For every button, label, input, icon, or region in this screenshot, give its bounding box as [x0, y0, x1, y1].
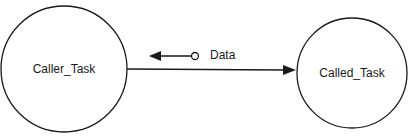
call-connector: [127, 69, 284, 70]
call-arrowhead-icon: [283, 65, 296, 75]
diagram-canvas: Caller_Task Called_Task Data: [0, 0, 418, 138]
caller-task-label: Caller_Task: [33, 62, 96, 76]
data-couple-arrowhead-icon: [149, 51, 161, 61]
figure-caption: [140, 133, 280, 138]
called-task-label: Called_Task: [319, 66, 384, 80]
data-couple-label: Data: [210, 48, 235, 62]
data-couple-tail-icon: [192, 53, 199, 60]
